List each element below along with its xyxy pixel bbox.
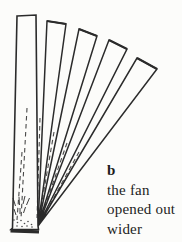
- base-stipple-dot: [31, 224, 33, 226]
- base-stipple-dot: [17, 222, 19, 224]
- caption-line-2: opened out: [107, 200, 175, 220]
- fan-base-cap: [11, 231, 40, 232]
- base-stipple-dot: [24, 223, 26, 225]
- base-stipple-dot: [31, 226, 33, 228]
- figure-label: b: [107, 161, 175, 181]
- base-stipple-dot: [26, 225, 28, 227]
- base-hatch-mark: [19, 197, 20, 205]
- base-stipple-dot: [16, 225, 18, 227]
- caption-line-1: the fan: [107, 181, 175, 201]
- base-stipple-dot: [21, 226, 23, 228]
- base-stipple-dot: [20, 220, 22, 222]
- figure-caption: b the fan opened out wider: [107, 161, 175, 239]
- base-stipple-dot: [13, 219, 15, 221]
- caption-line-3: wider: [107, 220, 175, 240]
- base-stipple-dot: [27, 221, 29, 223]
